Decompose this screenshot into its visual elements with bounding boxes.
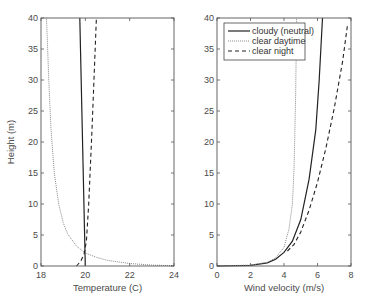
x-axis-label: Temperature (C) [73,282,142,293]
y-tick-label: 30 [28,75,38,85]
y-tick-label: 20 [28,137,38,147]
temperature-panel: 182022240510152025303540Temperature (C)H… [5,13,179,293]
y-tick-label: 0 [33,261,38,271]
x-tick-label: 8 [348,270,353,280]
y-tick-label: 5 [33,230,38,240]
x-tick-label: 6 [315,270,320,280]
y-tick-label: 35 [204,44,214,54]
y-tick-label: 40 [28,13,38,23]
legend-entry: clear daytime [252,36,306,46]
y-tick-label: 40 [204,13,214,23]
x-tick-label: 18 [36,270,46,280]
x-tick-label: 2 [248,270,253,280]
wind-panel: 024680510152025303540Wind velocity (m/s)… [204,13,354,293]
x-axis-label: Wind velocity (m/s) [244,282,324,293]
y-tick-label: 20 [204,137,214,147]
chart-figure: 182022240510152025303540Temperature (C)H… [0,0,371,305]
x-tick-label: 20 [80,270,90,280]
series-line-clear-daytime [47,18,175,266]
legend: cloudy (neutral)clear daytimeclear night [224,23,314,60]
y-tick-label: 15 [204,168,214,178]
y-tick-label: 5 [209,230,214,240]
y-tick-label: 10 [28,199,38,209]
series-line-cloudy-neutral [80,18,86,266]
y-tick-label: 25 [204,106,214,116]
legend-entry: cloudy (neutral) [252,26,314,36]
x-tick-label: 0 [214,270,219,280]
y-tick-label: 30 [204,75,214,85]
y-tick-label: 25 [28,106,38,116]
series-line-clear-night [77,18,97,266]
y-tick-label: 10 [204,199,214,209]
x-tick-label: 4 [281,270,286,280]
y-tick-label: 15 [28,168,38,178]
x-tick-label: 22 [125,270,135,280]
axes-frame [41,18,174,266]
legend-entry: clear night [252,46,294,56]
x-tick-label: 24 [169,270,179,280]
y-tick-label: 35 [28,44,38,54]
y-tick-label: 0 [209,261,214,271]
y-axis-label: Height (m) [5,120,16,164]
